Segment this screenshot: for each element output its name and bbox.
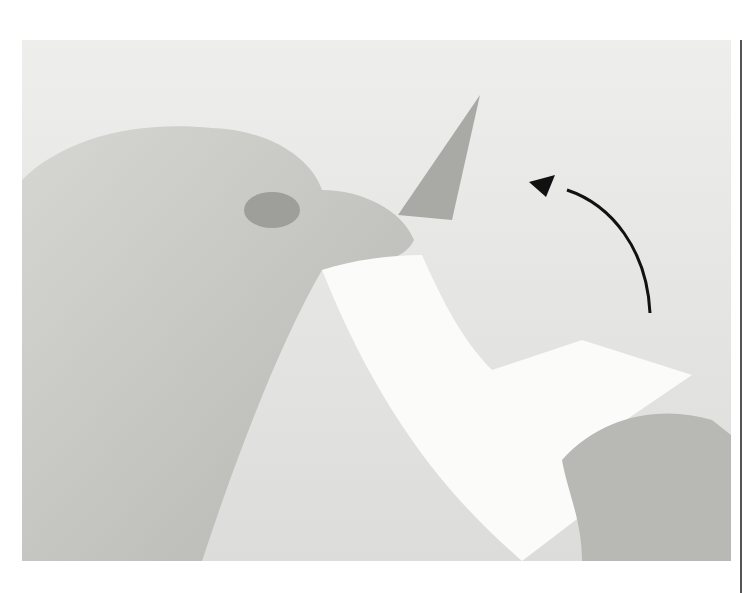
page-rule bbox=[740, 40, 742, 593]
photo-illustration bbox=[22, 40, 731, 561]
origami-photo bbox=[22, 40, 731, 561]
